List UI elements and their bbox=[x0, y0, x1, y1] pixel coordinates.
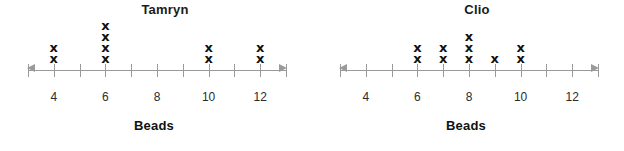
axis-tick-label: 12 bbox=[254, 90, 267, 104]
marker-stacks-tamryn: xxxxxxxxxx bbox=[28, 8, 286, 64]
dot-plot-tamryn: Tamryn xxxxxxxxxx 4681012 Beads bbox=[0, 0, 312, 151]
number-line-clio: 4681012 bbox=[340, 60, 598, 82]
dot-plot-figure: Tamryn xxxxxxxxxx 4681012 Beads Clio xxx… bbox=[0, 0, 624, 151]
axis-label-beads-clio: Beads bbox=[310, 118, 622, 133]
axis-tick-label: 8 bbox=[466, 90, 473, 104]
axis-tick-label: 12 bbox=[566, 90, 579, 104]
axis-tick bbox=[598, 64, 599, 77]
axis-tick bbox=[183, 64, 184, 77]
axis-tick-label: 10 bbox=[202, 90, 215, 104]
marker-stack: xxxx bbox=[101, 20, 109, 64]
axis-tick bbox=[54, 64, 55, 77]
number-line-tamryn: 4681012 bbox=[28, 60, 286, 82]
axis-tick-label: 4 bbox=[362, 90, 369, 104]
axis-tick bbox=[80, 64, 81, 77]
axis-tick bbox=[105, 64, 106, 77]
axis-tick bbox=[260, 64, 261, 77]
marker-stacks-clio: xxxxxxxxxx bbox=[340, 8, 598, 64]
axis-tick bbox=[209, 64, 210, 77]
axis-tick bbox=[286, 64, 287, 77]
axis-tick-label: 4 bbox=[50, 90, 57, 104]
axis-tick bbox=[131, 64, 132, 77]
axis-tick bbox=[495, 64, 496, 77]
axis-tick bbox=[521, 64, 522, 77]
axis-tick-label: 6 bbox=[102, 90, 109, 104]
axis-tick bbox=[572, 64, 573, 77]
axis-tick bbox=[443, 64, 444, 77]
axis-tick-label: 10 bbox=[514, 90, 527, 104]
axis-label-beads-tamryn: Beads bbox=[0, 118, 310, 133]
axis-tick bbox=[28, 64, 29, 77]
axis-tick bbox=[469, 64, 470, 77]
axis-tick-label: 6 bbox=[414, 90, 421, 104]
axis-tick bbox=[366, 64, 367, 77]
axis-tick-label: 8 bbox=[154, 90, 161, 104]
axis-tick bbox=[392, 64, 393, 77]
axis-tick bbox=[340, 64, 341, 77]
axis-tick bbox=[417, 64, 418, 77]
dot-plot-clio: Clio xxxxxxxxxx 4681012 Beads bbox=[312, 0, 624, 151]
axis-tick bbox=[234, 64, 235, 77]
axis-tick bbox=[546, 64, 547, 77]
axis-tick bbox=[157, 64, 158, 77]
